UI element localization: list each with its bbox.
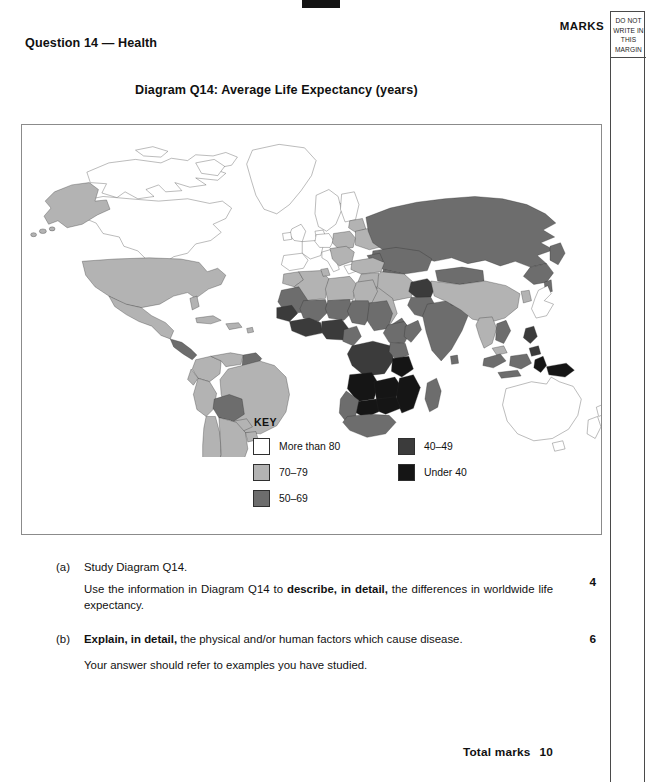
diagram-q14-map-frame: KEY More than 80 70–79 50–69 bbox=[21, 124, 602, 535]
key-item-50-69: 50–69 bbox=[253, 485, 398, 511]
key-item-40-49: 40–49 bbox=[398, 433, 543, 459]
region-philippines-south bbox=[529, 346, 541, 356]
key-column-right: 40–49 Under 40 bbox=[398, 433, 543, 511]
registration-mark bbox=[302, 0, 340, 8]
key-item-under-40: Under 40 bbox=[398, 459, 543, 485]
region-finland bbox=[340, 192, 359, 222]
total-marks-label: Total marks bbox=[463, 745, 531, 759]
region-new-zealand-south bbox=[587, 416, 601, 438]
q-b-text-1: the physical and/or human factors which … bbox=[177, 633, 463, 645]
margin-warning-text: DO NOT WRITE IN THIS MARGIN bbox=[611, 12, 646, 58]
key-swatch-40-49 bbox=[398, 438, 415, 455]
region-cuba bbox=[196, 316, 221, 324]
key-item-more-than-80: More than 80 bbox=[253, 433, 398, 459]
marks-column-header: MARKS bbox=[560, 20, 604, 32]
region-malaysia bbox=[492, 346, 507, 355]
total-marks-row: Total marks10 bbox=[56, 745, 553, 760]
region-kamchatka bbox=[550, 243, 565, 265]
question-part-a: (a) Study Diagram Q14. Use the informati… bbox=[56, 560, 553, 613]
question-part-b-line-2-text: Your answer should refer to examples you… bbox=[84, 659, 367, 671]
key-heading: KEY bbox=[253, 416, 543, 428]
region-tanzania bbox=[391, 356, 413, 377]
key-label-50-69: 50–69 bbox=[279, 493, 308, 504]
region-uk bbox=[290, 224, 306, 241]
region-java bbox=[498, 370, 521, 378]
region-peru bbox=[193, 378, 216, 416]
region-norway-sweden bbox=[315, 190, 342, 232]
region-korea bbox=[521, 290, 531, 303]
region-germany bbox=[315, 234, 334, 248]
region-ireland bbox=[283, 232, 292, 240]
region-madagascar bbox=[425, 378, 441, 412]
region-libya bbox=[325, 276, 356, 300]
question-part-b-content: Explain, in detail, the physical and/or … bbox=[84, 632, 553, 673]
region-spain-portugal bbox=[281, 253, 308, 270]
region-canada-arctic-islands bbox=[136, 147, 168, 157]
region-hispaniola bbox=[226, 323, 242, 330]
page-title: Question 14 — Health bbox=[25, 36, 157, 50]
region-mongolia bbox=[435, 267, 484, 284]
question-part-a-marks: 4 bbox=[589, 575, 596, 590]
question-part-b-line-1: Explain, in detail, the physical and/or … bbox=[84, 632, 553, 647]
diagram-title: Diagram Q14: Average Life Expectancy (ye… bbox=[135, 83, 418, 97]
question-part-a-line-2: Use the information in Diagram Q14 to de… bbox=[84, 582, 553, 613]
region-borneo bbox=[510, 354, 532, 369]
region-aleutian-1 bbox=[39, 229, 46, 234]
region-myanmar-thailand bbox=[476, 317, 497, 348]
total-marks-value: 10 bbox=[539, 745, 553, 759]
region-us-florida bbox=[190, 296, 199, 310]
region-greenland bbox=[247, 144, 316, 213]
question-part-b-marks: 6 bbox=[589, 632, 596, 647]
key-swatch-70-79 bbox=[253, 464, 270, 481]
world-choropleth-map bbox=[22, 127, 601, 457]
region-vietnam bbox=[496, 320, 511, 343]
question-part-b-line-2: Your answer should refer to examples you… bbox=[84, 658, 553, 673]
region-new-zealand-north bbox=[596, 404, 601, 417]
region-bolivia bbox=[213, 394, 244, 421]
region-sri-lanka bbox=[450, 355, 458, 364]
map-key: KEY More than 80 70–79 50–69 bbox=[253, 416, 543, 511]
key-swatch-under-40 bbox=[398, 464, 415, 481]
key-label-more-than-80: More than 80 bbox=[279, 441, 340, 452]
region-drcongo bbox=[347, 341, 393, 376]
region-canada bbox=[87, 152, 238, 198]
region-mali bbox=[300, 300, 329, 322]
question-part-a-letter: (a) bbox=[56, 560, 80, 575]
q-a-text-1: Use the information in Diagram Q14 to bbox=[84, 583, 287, 595]
question-part-b: (b) Explain, in detail, the physical and… bbox=[56, 632, 553, 673]
key-swatch-50-69 bbox=[253, 490, 270, 507]
key-column-left: More than 80 70–79 50–69 bbox=[253, 433, 398, 511]
region-aleutian-2 bbox=[31, 233, 37, 237]
region-papua-new-guinea bbox=[547, 363, 575, 377]
key-label-70-79: 70–79 bbox=[279, 467, 308, 478]
question-body: (a) Study Diagram Q14. Use the informati… bbox=[56, 560, 553, 684]
region-philippines bbox=[523, 326, 537, 343]
question-part-b-letter: (b) bbox=[56, 632, 80, 647]
question-part-a-content: Study Diagram Q14. Use the information i… bbox=[84, 560, 553, 613]
region-sumatra bbox=[483, 354, 506, 368]
region-central-america bbox=[170, 339, 197, 360]
key-item-70-79: 70–79 bbox=[253, 459, 398, 485]
question-part-a-line-1: Study Diagram Q14. bbox=[84, 560, 553, 575]
key-swatch-more-than-80 bbox=[253, 438, 270, 455]
region-tasmania bbox=[552, 441, 565, 451]
q-a-emph-describe: describe, in detail, bbox=[287, 583, 388, 595]
key-label-under-40: Under 40 bbox=[424, 467, 467, 478]
region-caribbean-small bbox=[247, 327, 254, 333]
do-not-write-margin: DO NOT WRITE IN THIS MARGIN bbox=[610, 11, 645, 782]
region-united-states bbox=[82, 258, 226, 308]
region-chile bbox=[203, 416, 222, 457]
key-label-40-49: 40–49 bbox=[424, 441, 453, 452]
region-cameroon bbox=[343, 326, 362, 346]
q-b-emph-explain: Explain, in detail, bbox=[84, 633, 177, 645]
region-sulawesi bbox=[534, 356, 547, 372]
region-aleutian-3 bbox=[49, 227, 55, 231]
